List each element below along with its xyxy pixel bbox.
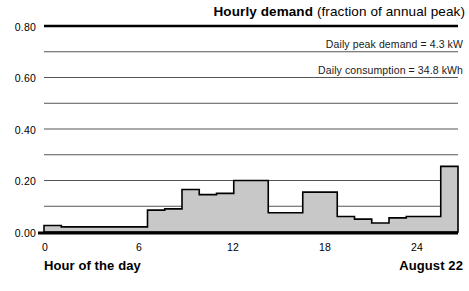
plot-area [0,0,469,291]
demand-step-area [44,166,458,232]
demand-series [44,166,458,232]
chart-figure: Hourly demand (fraction of annual peak) … [0,0,469,291]
gridlines [44,26,458,206]
